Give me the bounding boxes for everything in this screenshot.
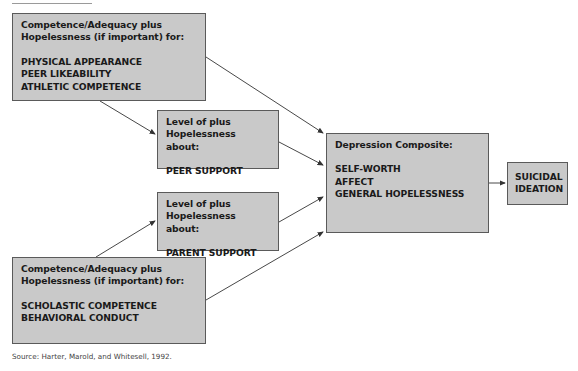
box-heading: Hopelessness (if important) for:: [21, 31, 197, 43]
box-item: ATHLETIC COMPETENCE: [21, 81, 197, 93]
box-item: SCHOLASTIC COMPETENCE: [21, 300, 197, 312]
box-item: SELF-WORTH: [335, 163, 480, 175]
box-item: PHYSICAL APPEARANCE: [21, 56, 197, 68]
box-heading: Hopelessness about:: [166, 210, 270, 235]
parent-support-box: Level of plus Hopelessness about: PARENT…: [157, 192, 279, 251]
box-item: PEER SUPPORT: [166, 165, 270, 177]
box-heading: Level of plus: [166, 116, 270, 128]
competence-social-box: Competence/Adequacy plus Hopelessness (i…: [12, 13, 206, 101]
box-heading: Depression Composite:: [335, 139, 480, 151]
arrow-social-to-peer: [100, 101, 155, 134]
peer-support-box: Level of plus Hopelessness about: PEER S…: [157, 110, 279, 169]
arrow-parent-to-depression: [279, 197, 323, 222]
source-caption: Source: Harter, Marold, and Whitesell, 1…: [12, 352, 172, 361]
box-item: BEHAVIORAL CONDUCT: [21, 312, 197, 324]
box-item: AFFECT: [335, 176, 480, 188]
box-item: PEER LIKEABILITY: [21, 68, 197, 80]
box-heading: Hopelessness about:: [166, 128, 270, 153]
competence-academic-box: Competence/Adequacy plus Hopelessness (i…: [12, 257, 206, 344]
arrow-peer-to-depression: [279, 142, 323, 165]
box-heading: Level of plus: [166, 198, 270, 210]
box-item: SUICIDAL: [515, 171, 560, 183]
box-item: IDEATION: [515, 183, 560, 195]
box-heading: Competence/Adequacy plus: [21, 19, 197, 31]
box-heading: Hopelessness (if important) for:: [21, 275, 197, 287]
box-heading: Competence/Adequacy plus: [21, 263, 197, 275]
arrow-academic-to-parent: [96, 221, 155, 257]
depression-composite-box: Depression Composite: SELF-WORTH AFFECT …: [326, 133, 489, 233]
box-item: GENERAL HOPELESSNESS: [335, 188, 480, 200]
suicidal-ideation-box: SUICIDAL IDEATION: [507, 162, 568, 205]
